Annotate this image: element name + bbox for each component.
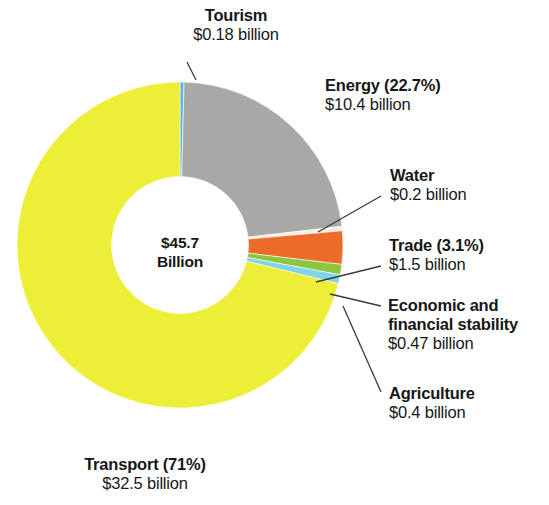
label-economic-title-line2: financial stability	[388, 315, 518, 334]
leader-line-tourism	[187, 62, 196, 80]
leader-line-agriculture	[343, 306, 381, 392]
label-transport: Transport (71%) $32.5 billion	[20, 455, 270, 493]
label-agriculture: Agriculture $0.4 billion	[389, 384, 475, 422]
label-economic-value: $0.47 billion	[388, 334, 518, 353]
donut-center-total: $45.7 Billion	[120, 234, 240, 271]
donut-center-total-line2: Billion	[120, 253, 240, 272]
label-water-title: Water	[390, 166, 467, 185]
label-tourism-value: $0.18 billion	[151, 25, 321, 44]
label-water: Water $0.2 billion	[390, 166, 467, 204]
label-agriculture-title: Agriculture	[389, 384, 475, 403]
label-agriculture-value: $0.4 billion	[389, 403, 475, 422]
label-water-value: $0.2 billion	[390, 185, 467, 204]
label-energy-value: $10.4 billion	[325, 95, 441, 114]
label-trade-value: $1.5 billion	[389, 255, 484, 274]
label-energy: Energy (22.7%) $10.4 billion	[325, 76, 441, 114]
donut-center-total-line1: $45.7	[120, 234, 240, 253]
leader-line-economic	[330, 294, 381, 306]
label-trade-title: Trade (3.1%)	[389, 236, 484, 255]
label-trade: Trade (3.1%) $1.5 billion	[389, 236, 484, 274]
pie-slice-energy[interactable]	[182, 82, 342, 237]
label-transport-title: Transport (71%)	[20, 455, 270, 474]
label-economic-financial-stability: Economic and financial stability $0.47 b…	[388, 296, 518, 353]
label-transport-value: $32.5 billion	[20, 474, 270, 493]
label-energy-title: Energy (22.7%)	[325, 76, 441, 95]
label-tourism-title: Tourism	[151, 6, 321, 25]
label-tourism: Tourism $0.18 billion	[151, 6, 321, 44]
donut-chart-figure: Tourism $0.18 billion Energy (22.7%) $10…	[0, 0, 549, 505]
label-economic-title-line1: Economic and	[388, 296, 518, 315]
